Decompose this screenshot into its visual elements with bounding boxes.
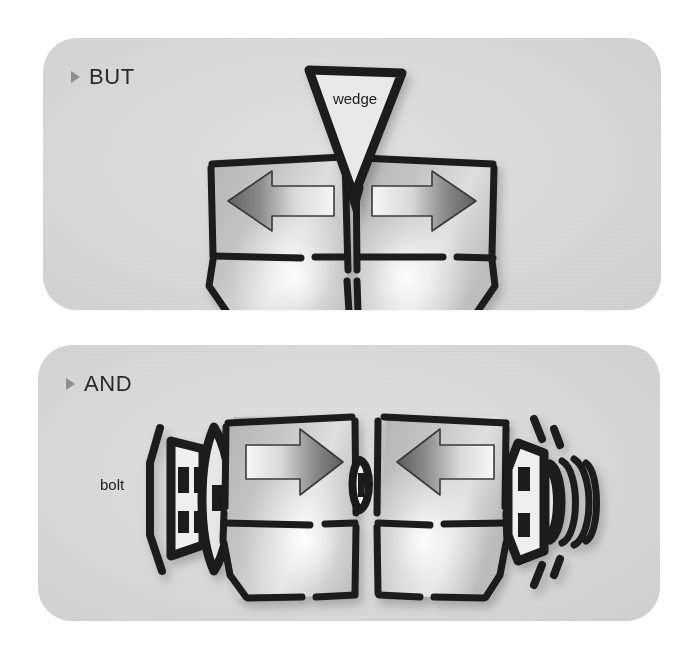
center-joint [353, 460, 370, 510]
nut-group [508, 419, 597, 585]
triangle-right-bullet-icon [66, 378, 75, 390]
panel-but-label-text: BUT [89, 66, 135, 88]
block-right-group [356, 156, 495, 310]
panel-and: AND bolt [38, 345, 660, 621]
panel-and-label: AND [66, 373, 132, 395]
panel-but-label: BUT [71, 66, 135, 88]
wedge-annotation-text: wedge [332, 90, 377, 107]
wedge-figure: wedge [43, 38, 661, 310]
bolt-head-group [150, 427, 231, 571]
illustration-stage: BUT [0, 0, 694, 649]
triangle-right-bullet-icon [71, 71, 80, 83]
block2-left-group [223, 415, 356, 599]
panel-and-label-text: AND [84, 373, 132, 395]
bolt-annotation-text: bolt [100, 476, 124, 493]
block2-right-group [377, 415, 507, 599]
block-left-group [209, 156, 349, 310]
panel-but: BUT [43, 38, 661, 310]
